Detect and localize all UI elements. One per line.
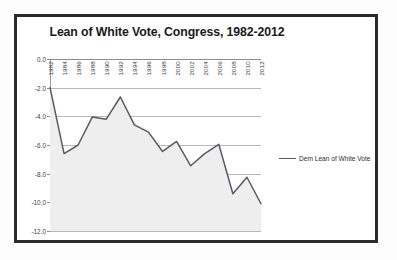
y-tick-label--10.0: -10.0	[31, 199, 46, 206]
gridline--12.0	[50, 231, 261, 232]
y-tick-label--4.0: -4.0	[35, 113, 46, 120]
plot-area: 0.0-2.0-4.0-6.0-8.0-10.0-12.0 1982198419…	[50, 59, 261, 231]
y-tick-label--8.0: -8.0	[35, 170, 46, 177]
y-tick-mark	[47, 231, 50, 232]
series-area-fill	[50, 88, 261, 231]
y-tick-label--6.0: -6.0	[35, 142, 46, 149]
chart-canvas: Lean of White Vote, Congress, 1982-2012 …	[17, 17, 375, 240]
chart-title: Lean of White Vote, Congress, 1982-2012	[17, 25, 317, 39]
line-chart: Lean of White Vote, Congress, 1982-2012 …	[17, 17, 375, 240]
legend-line-swatch	[279, 158, 296, 159]
screenshot-root: Lean of White Vote, Congress, 1982-2012 …	[0, 0, 397, 260]
legend-label-dem-lean-of-white-vote: Dem Lean of White Vote	[299, 155, 370, 162]
y-tick-label-0.0: 0.0	[37, 56, 46, 63]
chart-image-frame: Lean of White Vote, Congress, 1982-2012 …	[14, 14, 378, 243]
y-tick-label--2.0: -2.0	[35, 84, 46, 91]
chart-legend: Dem Lean of White Vote	[279, 155, 370, 162]
y-tick-label--12.0: -12.0	[31, 228, 46, 235]
series-dem-lean-of-white-vote	[50, 59, 261, 231]
